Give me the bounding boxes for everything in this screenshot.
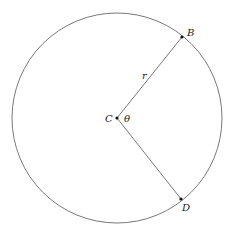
circle-diagram: B C θ D r xyxy=(0,0,233,234)
radius-cb xyxy=(117,37,182,118)
point-b xyxy=(180,35,183,38)
point-d xyxy=(179,197,182,200)
label-b: B xyxy=(186,27,194,38)
label-theta: θ xyxy=(124,113,130,124)
radius-cd xyxy=(117,118,181,199)
label-r: r xyxy=(142,70,148,81)
point-c xyxy=(115,116,118,119)
label-c: C xyxy=(105,113,113,124)
label-d: D xyxy=(181,202,190,213)
